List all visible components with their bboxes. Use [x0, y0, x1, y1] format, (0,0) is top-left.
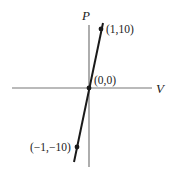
v-axis-label: V [156, 81, 166, 96]
point-origin [87, 86, 92, 91]
diagram-canvas: P V (1,10) (0,0) (−1,−10) [0, 0, 171, 177]
point-top [99, 27, 104, 32]
point-top-label: (1,10) [106, 23, 134, 36]
p-axis-label: P [81, 8, 90, 23]
point-bottom [75, 145, 80, 150]
point-origin-label: (0,0) [94, 74, 116, 87]
point-bottom-label: (−1,−10) [30, 141, 71, 154]
